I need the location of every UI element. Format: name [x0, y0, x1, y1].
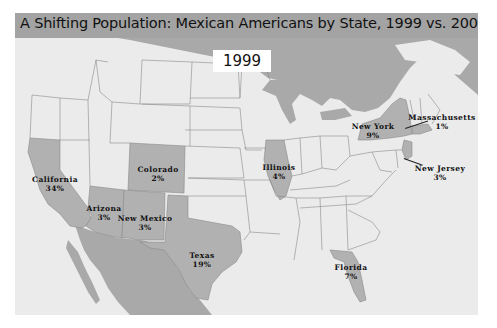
- state-percentage: 1%: [408, 122, 475, 131]
- year-badge: 1999: [213, 50, 271, 72]
- state-label-massachusetts: Massachusetts1%: [408, 113, 475, 131]
- state-percentage: 3%: [415, 173, 465, 182]
- map-title: A Shifting Population: Mexican Americans…: [20, 15, 478, 31]
- title-bar: A Shifting Population: Mexican Americans…: [15, 13, 478, 38]
- state-name: New Jersey: [415, 164, 465, 173]
- state-name: California: [32, 175, 78, 184]
- state-label-illinois: Illinois4%: [263, 163, 296, 181]
- state-percentage: 34%: [32, 184, 78, 193]
- great-lakes: [262, 78, 330, 124]
- state-label-texas: Texas19%: [189, 251, 214, 269]
- state-label-arizona: Arizona3%: [87, 204, 122, 222]
- state-percentage: 3%: [118, 223, 173, 232]
- state-label-colorado: Colorado2%: [137, 165, 178, 183]
- state-name: New York: [352, 122, 395, 131]
- state-label-florida: Florida7%: [335, 263, 368, 281]
- state-percentage: 4%: [263, 172, 296, 181]
- state-percentage: 7%: [335, 272, 368, 281]
- state-name: New Mexico: [118, 214, 173, 223]
- state-percentage: 2%: [137, 174, 178, 183]
- state-percentage: 3%: [87, 213, 122, 222]
- state-name: Arizona: [87, 204, 122, 213]
- state-label-new-mexico: New Mexico3%: [118, 214, 173, 232]
- state-name: Texas: [189, 251, 214, 260]
- state-percentage: 9%: [352, 131, 395, 140]
- state-label-new-york: New York9%: [352, 122, 395, 140]
- state-name: Illinois: [263, 163, 296, 172]
- state-name: Massachusetts: [408, 113, 475, 122]
- map: A Shifting Population: Mexican Americans…: [15, 13, 478, 315]
- state-percentage: 19%: [189, 260, 214, 269]
- state-label-california: California34%: [32, 175, 78, 193]
- state-label-new-jersey: New Jersey3%: [415, 164, 465, 182]
- state-name: Florida: [335, 263, 368, 272]
- state-name: Colorado: [137, 165, 178, 174]
